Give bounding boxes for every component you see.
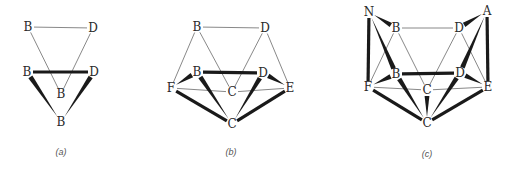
atom-label-A: A (482, 4, 492, 18)
atom-label-B3: B (57, 87, 66, 101)
atom-label-F: F (364, 80, 372, 94)
caption-c: (c) (422, 149, 433, 159)
atom-label-E: E (286, 81, 295, 95)
atom-label-B1: B (392, 21, 401, 35)
atom-label-D1: D (454, 21, 464, 35)
edge-A-E (487, 17, 488, 81)
atom-label-D2: D (89, 65, 99, 79)
caption-b: (b) (226, 147, 237, 157)
atom-label-B2: B (23, 65, 32, 79)
polyhedra-figure: BDBDBB (a) BDBDFECC (b) NABDBDFECC (c) (0, 0, 516, 169)
atom-label-B4: B (57, 115, 66, 129)
atom-label-F: F (167, 81, 175, 95)
atom-label-C1: C (422, 83, 431, 97)
atom-label-D1: D (260, 21, 270, 35)
atom-label-B2: B (193, 65, 202, 79)
atom-label-C1: C (227, 85, 236, 99)
atom-label-B1: B (193, 20, 202, 34)
edge-N-F (368, 18, 369, 81)
atom-label-B2: B (392, 67, 401, 81)
atom-label-D2: D (455, 66, 465, 80)
edge-B2-D2 (402, 73, 454, 74)
atom-label-C2: C (422, 116, 431, 130)
caption-a: (a) (56, 147, 67, 157)
atom-label-C2: C (227, 117, 236, 131)
edge-B2-D2 (203, 72, 257, 73)
atom-label-E: E (484, 80, 493, 94)
atom-label-B1: B (24, 20, 33, 34)
figure-canvas: BDBDBB (a) BDBDFECC (b) NABDBDFECC (c) (0, 0, 516, 169)
atom-label-D2: D (258, 66, 268, 80)
atom-label-N: N (364, 5, 375, 19)
atom-label-D1: D (88, 21, 98, 35)
